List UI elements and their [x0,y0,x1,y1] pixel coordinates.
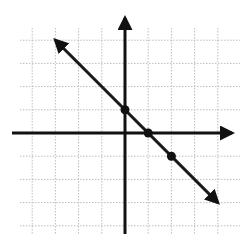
data-point [121,105,130,114]
data-point [144,129,153,138]
line-y-equals-neg-x-plus-1 [55,40,217,202]
coordinate-plane [0,0,240,234]
axes [12,18,232,234]
grid-lines [20,28,240,234]
plotted-line [55,40,217,202]
data-point [167,152,176,161]
